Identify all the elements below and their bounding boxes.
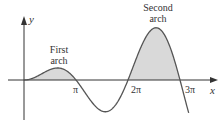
first-arch-label: First (50, 44, 69, 55)
y-axis-label: y (28, 13, 34, 25)
second-arch-label: Second (143, 2, 172, 13)
tick-label-3pi: 3π (185, 84, 195, 95)
y-axis-arrow-icon (21, 16, 27, 25)
first-arch-label-2: arch (50, 55, 67, 66)
x-axis-label: x (209, 84, 215, 96)
chart-canvas: y x π 2π 3π First arch Second arch (0, 0, 224, 125)
tick-label-2pi: 2π (131, 84, 141, 95)
x-axis-arrow-icon (210, 77, 218, 83)
second-arch-label-2: arch (149, 13, 166, 24)
tick-label-pi: π (73, 84, 78, 95)
